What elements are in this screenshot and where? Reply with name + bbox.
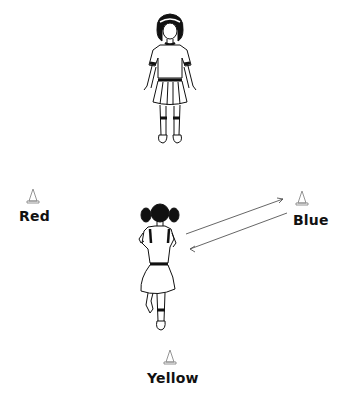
arrow-out — [186, 199, 283, 234]
drill-diagram: Red Blue Yellow — [0, 0, 340, 407]
arrow-back — [190, 213, 287, 249]
running-girl-figure — [138, 203, 200, 331]
